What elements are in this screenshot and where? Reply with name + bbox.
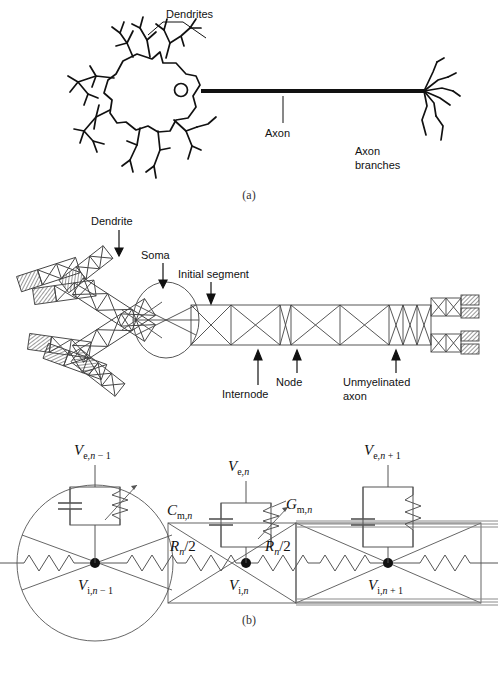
label-axon-branches-line1: Axon [355,145,380,157]
panel-a-caption: (a) [0,188,498,203]
dendrite-compartments [17,246,162,397]
label-cm-n: Cm,n [167,502,192,521]
label-vi-n: Vi,n [229,577,248,596]
panel-a-svg: Dendrites Axon Axon branches [0,0,498,210]
gmn-leader-line [272,501,286,507]
label-axon-branches-line2: branches [355,159,401,171]
panel-a-neuron-drawing: Dendrites Axon Axon branches (a) [0,0,498,210]
label-unmyelinated-line1: Unmyelinated [343,376,410,388]
axon-branches-drawing [422,58,460,140]
label-ve-n-plus-1: Ve,n + 1 [364,442,401,461]
panel-a-leaders [148,22,283,123]
label-dendrite: Dendrite [91,215,133,227]
label-ve-n-minus-1: Ve,n − 1 [74,442,111,461]
label-axon: Axon [265,127,290,139]
axon-compartments [191,305,431,345]
label-node: Node [276,376,302,388]
compartment-boxes [168,523,481,603]
label-initial-segment: Initial segment [178,268,249,280]
label-rn-half-left: Rn/2 [169,538,196,557]
membrane-element-n-plus-1 [351,465,421,563]
label-rn-half-right: Rn/2 [264,538,291,557]
label-vi-n-minus-1: Vi,n − 1 [78,577,113,596]
label-unmyelinated-line2: axon [343,390,367,402]
dendritic-tree [68,17,216,178]
panel-b-svg: Dendrite Soma Initial segment Internode … [0,210,498,425]
label-ve-n: Ve,n [228,458,249,477]
label-gm-n: Gm,n [286,496,312,515]
panel-c-svg: Ve,n − 1 Ve,n Ve,n + 1 Cm,n Gm,n Rn/2 Rn… [0,425,498,700]
panel-b-compartment-schematic: Dendrite Soma Initial segment Internode … [0,210,498,425]
label-soma: Soma [141,249,171,261]
label-vi-n-plus-1: Vi,n + 1 [368,577,403,596]
panel-c-equivalent-circuit: Ve,n − 1 Ve,n Ve,n + 1 Cm,n Gm,n Rn/2 Rn… [0,425,498,700]
soma-circle [133,282,199,358]
axon-terminal-branches [431,295,479,354]
label-dendrites: Dendrites [166,8,214,20]
label-internode: Internode [222,388,268,400]
membrane-element-n-minus-1 [58,465,137,563]
